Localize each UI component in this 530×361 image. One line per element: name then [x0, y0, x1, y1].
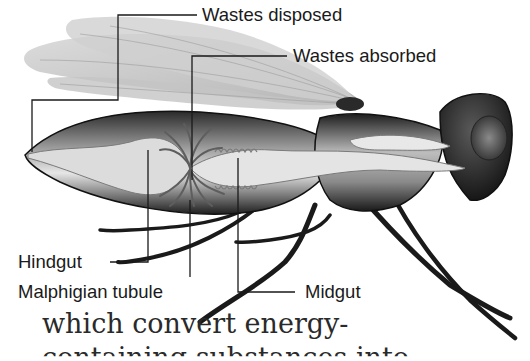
label-hindgut: Hindgut [18, 253, 82, 272]
label-wastes-disposed: Wastes disposed [202, 6, 342, 25]
label-wastes-absorbed: Wastes absorbed [293, 47, 436, 66]
compound-eye [471, 116, 507, 160]
label-malphigian-tubule: Malphigian tubule [18, 283, 163, 302]
label-midgut: Midgut [305, 283, 361, 302]
body-text-line-2-cropped: containing substances into [42, 344, 409, 361]
body-text-line-1: which convert energy- [42, 310, 348, 337]
